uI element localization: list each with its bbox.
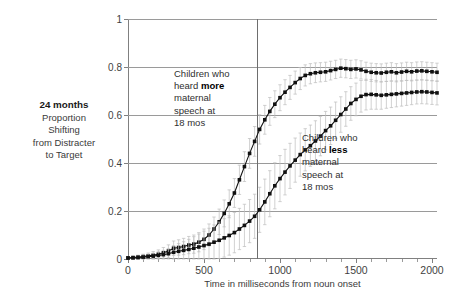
- data-point: [222, 236, 226, 240]
- data-point: [430, 70, 434, 74]
- data-point: [410, 91, 414, 95]
- data-point: [157, 254, 161, 258]
- data-point: [283, 170, 287, 174]
- x-tick-minor: [234, 259, 235, 262]
- annotation-less-speech: Children who heard less maternal speech …: [302, 132, 357, 193]
- data-point: [339, 66, 343, 70]
- y-axis-caption-line-0: Proportion: [42, 112, 86, 123]
- data-point: [197, 245, 201, 249]
- data-point: [435, 70, 439, 74]
- data-point: [243, 165, 247, 169]
- x-tick-label: 500: [195, 264, 213, 276]
- data-point: [364, 70, 368, 74]
- data-point: [405, 70, 409, 74]
- data-point: [359, 68, 363, 72]
- data-point: [248, 152, 252, 156]
- y-tick-label: 0.4: [108, 158, 122, 169]
- y-tick-label: 0.8: [108, 62, 122, 73]
- data-point: [288, 86, 292, 90]
- data-point: [172, 250, 176, 254]
- data-point: [319, 70, 323, 74]
- x-tick-minor: [219, 259, 220, 262]
- x-tick-label: 2000: [420, 264, 443, 276]
- data-point: [227, 234, 231, 238]
- chart-plot-area: 00.20.40.60.81 0500100015002000 Children…: [128, 19, 437, 259]
- data-point: [238, 227, 242, 231]
- x-tick-minor: [310, 259, 311, 262]
- data-point: [374, 93, 378, 97]
- data-point: [278, 96, 282, 100]
- data-point: [182, 249, 186, 253]
- data-point: [162, 253, 166, 257]
- data-point: [405, 91, 409, 95]
- x-tick-label: 0: [125, 264, 131, 276]
- data-point: [374, 71, 378, 75]
- x-axis-title: Time in milliseconds from noun onset: [128, 278, 437, 289]
- data-point: [354, 67, 358, 71]
- data-point: [390, 93, 394, 97]
- data-point: [415, 90, 419, 94]
- data-point: [369, 70, 373, 74]
- x-tick-minor: [158, 259, 159, 262]
- y-tick-label: 0.6: [108, 110, 122, 121]
- data-point: [303, 74, 307, 78]
- data-point: [248, 219, 252, 223]
- data-point: [187, 248, 191, 252]
- x-tick-minor: [295, 259, 296, 262]
- data-point: [227, 202, 231, 206]
- data-point: [288, 164, 292, 168]
- data-point: [420, 90, 424, 94]
- data-point: [258, 208, 262, 212]
- y-axis-caption-line-1: Shifting: [48, 124, 80, 135]
- data-point: [369, 93, 373, 97]
- data-point: [177, 250, 181, 254]
- data-point: [263, 118, 267, 122]
- annotation-more-speech: Children who heard more maternal speech …: [174, 68, 229, 129]
- x-tick-minor: [265, 259, 266, 262]
- x-tick-minor: [402, 259, 403, 262]
- y-tick-label: 1: [116, 14, 122, 25]
- x-tick-minor: [250, 259, 251, 262]
- data-point: [233, 191, 237, 195]
- data-point: [354, 98, 358, 102]
- data-point: [141, 255, 145, 259]
- data-point: [415, 69, 419, 73]
- data-point: [385, 70, 389, 74]
- data-point: [273, 184, 277, 188]
- data-point: [217, 238, 221, 242]
- x-tick: [432, 259, 433, 263]
- data-point: [359, 94, 363, 98]
- data-point: [314, 71, 318, 75]
- data-point: [390, 70, 394, 74]
- data-point: [339, 113, 343, 117]
- data-point: [385, 93, 389, 97]
- y-axis-caption-line-3: to Target: [46, 149, 83, 160]
- data-point: [263, 200, 267, 204]
- data-point: [253, 140, 257, 144]
- data-point: [379, 71, 383, 75]
- x-tick-minor: [371, 259, 372, 262]
- data-point: [131, 256, 135, 260]
- data-point: [268, 192, 272, 196]
- x-tick-minor: [386, 259, 387, 262]
- y-axis-caption-line-2: from Distracter: [33, 137, 95, 148]
- x-tick-label: 1000: [268, 264, 291, 276]
- x-tick-label: 1500: [344, 264, 367, 276]
- data-point: [324, 70, 328, 74]
- data-point: [400, 70, 404, 74]
- x-tick-minor: [417, 259, 418, 262]
- data-point: [425, 70, 429, 74]
- data-point: [268, 110, 272, 114]
- data-point: [309, 72, 313, 76]
- data-point: [410, 70, 414, 74]
- data-point: [344, 107, 348, 111]
- data-point: [298, 77, 302, 81]
- data-point: [425, 90, 429, 94]
- data-point: [207, 242, 211, 246]
- data-point: [222, 212, 226, 216]
- data-point: [349, 68, 353, 72]
- data-point: [126, 256, 130, 260]
- data-point: [167, 252, 171, 256]
- data-point: [278, 177, 282, 181]
- data-point: [136, 256, 140, 260]
